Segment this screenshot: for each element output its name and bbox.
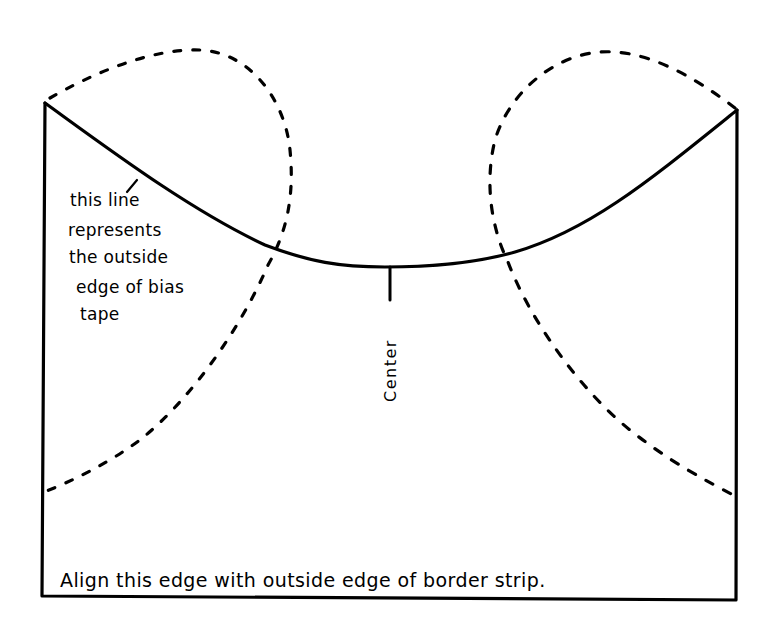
- annotation-line-2: represents: [68, 220, 162, 240]
- bias-tape-edge-curve: [45, 103, 737, 267]
- annotation-line-3: the outside: [69, 247, 168, 267]
- right-dashed-curve: [490, 52, 737, 497]
- center-label: Center: [381, 339, 400, 402]
- left-dashed-curve: [44, 50, 291, 492]
- annotation-text: this line represents the outside edge of…: [68, 190, 184, 324]
- annotation-line-1: this line: [70, 190, 140, 210]
- sewing-pattern-diagram: this line represents the outside edge of…: [0, 0, 779, 634]
- align-edge-caption: Align this edge with outside edge of bor…: [60, 569, 546, 591]
- annotation-line-5: tape: [80, 304, 120, 324]
- annotation-line-4: edge of bias: [76, 277, 184, 297]
